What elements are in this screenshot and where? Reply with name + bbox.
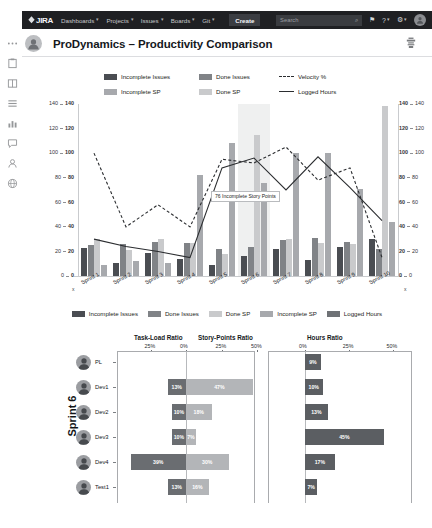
page-header: ProDynamics – Productivity Comparison [22, 31, 432, 57]
hours-bar[interactable]: 7% [305, 479, 317, 495]
clipboard-icon[interactable] [7, 55, 18, 66]
nav-item-boards[interactable]: Boards ▾ [171, 17, 196, 24]
ratio-row[interactable]: Dev439%30%17% [22, 451, 432, 476]
legend-item-done-sp-b[interactable]: Done SP [209, 310, 250, 317]
legend-swatch [209, 311, 222, 317]
task-load-bar[interactable]: 39% [131, 454, 186, 470]
notifications-icon[interactable]: ⚑ [369, 16, 375, 24]
jira-logo-text: JIRA [36, 16, 53, 25]
legend-item-incomplete-sp-b[interactable]: Incomplete SP [260, 310, 317, 317]
chart-icon[interactable] [7, 115, 18, 126]
jira-logo[interactable]: JIRA [28, 16, 53, 25]
ratio-row-label: Dev2 [95, 409, 109, 415]
y-tick-mark [404, 276, 407, 277]
ratio-axis-tick-label: 50% [387, 343, 398, 349]
user-avatar[interactable] [414, 14, 426, 26]
legend-item-velocity[interactable]: Velocity % [279, 73, 389, 80]
y-tick-label: 40 [412, 224, 418, 229]
legend-item-incomplete-issues-b[interactable]: Incomplete Issues [72, 310, 138, 317]
y-tick-label-bold: 20 [399, 249, 405, 254]
row-tick-mark [113, 437, 116, 438]
people-icon[interactable] [7, 155, 18, 166]
y-tick-mark [407, 226, 410, 227]
y-tick-mark [410, 104, 413, 105]
chevron-down-icon: ▾ [131, 18, 134, 23]
legend-item-incomplete-issues[interactable]: Incomplete Issues [104, 73, 199, 80]
hours-bar[interactable]: 10% [305, 379, 323, 395]
legend-label: Incomplete SP [121, 88, 161, 95]
hours-bar[interactable]: 9% [305, 354, 321, 370]
legend-swatch [104, 74, 117, 80]
task-load-bar[interactable]: 13% [168, 479, 186, 495]
y-tick-label-bold: 80 [68, 175, 74, 180]
story-points-bar[interactable]: 30% [186, 454, 229, 470]
hours-bar[interactable]: 13% [305, 404, 328, 420]
nav-item-issues[interactable]: Issues ▾ [141, 17, 164, 24]
y-tick-mark [60, 153, 63, 154]
y-tick-label: 140 [49, 101, 58, 106]
ratio-row[interactable]: Test113%16%7% [22, 476, 432, 501]
ratio-axis-tick-label: 25% [343, 343, 354, 349]
gear-glyph: ⚙ [397, 16, 403, 24]
more-options-icon[interactable] [7, 35, 18, 46]
task-load-bar[interactable]: 10% [172, 404, 186, 420]
chat-icon[interactable] [7, 135, 18, 146]
ratio-row[interactable]: Dev113%47%10% [22, 376, 432, 401]
y-tick-mark [63, 226, 66, 227]
nav-right-group: Search ⌕ ⚑ ?▾ ⚙▾ [276, 14, 426, 26]
legend-item-done-issues-b[interactable]: Done Issues [148, 310, 199, 317]
y-tick-label-bold: 60 [399, 200, 405, 205]
ratio-row[interactable]: Dev310%7%45% [22, 426, 432, 451]
legend-label: Done SP [216, 88, 240, 95]
chevron-down-icon: ▾ [161, 18, 164, 23]
hours-bar[interactable]: 17% [305, 454, 335, 470]
settings-gear-icon[interactable]: ⚙▾ [397, 16, 407, 24]
avatar [76, 480, 91, 495]
story-points-bar[interactable]: 18% [186, 404, 212, 420]
task-load-bar[interactable]: 10% [172, 429, 186, 445]
avatar [76, 355, 91, 370]
chart-legend-top: Incomplete Issues Done Issues Velocity %… [104, 69, 404, 99]
legend-item-logged-hours[interactable]: Logged Hours [279, 88, 389, 95]
row-tick-mark [113, 387, 116, 388]
legend-label: Done SP [226, 310, 250, 317]
nav-item-dashboards[interactable]: Dashboards ▾ [61, 17, 99, 24]
legend-swatch [199, 89, 212, 95]
story-points-bar[interactable]: 16% [186, 479, 209, 495]
legend-item-done-issues[interactable]: Done Issues [199, 73, 279, 80]
create-button[interactable]: Create [229, 14, 260, 26]
y-tick-label: 20 [55, 249, 61, 254]
nav-item-label: Git [202, 17, 210, 24]
y-tick-mark [63, 251, 66, 252]
chevron-down-icon: ▾ [96, 18, 99, 23]
book-icon[interactable] [7, 75, 18, 86]
story-points-bar[interactable]: 7% [186, 429, 196, 445]
ratio-axis-tick-label: 25% [145, 343, 156, 349]
ratio-axis-tick-label: 0% [299, 343, 307, 349]
ratio-row[interactable]: Dev210%18%13% [22, 401, 432, 426]
legend-item-incomplete-sp[interactable]: Incomplete SP [104, 88, 199, 95]
x-axis-end-marker: x [404, 286, 407, 292]
search-input[interactable]: Search ⌕ [276, 15, 362, 26]
legend-swatch [327, 311, 340, 317]
globe-icon[interactable] [7, 175, 18, 186]
legend-swatch [260, 311, 273, 317]
ratio-row[interactable]: PL9% [22, 351, 432, 376]
list-icon[interactable] [7, 95, 18, 106]
legend-item-done-sp[interactable]: Done SP [199, 88, 279, 95]
gadget-menu-icon[interactable] [406, 35, 416, 53]
ratio-row-label: Dev3 [95, 434, 109, 440]
y-tick-label-bold: 120 [399, 126, 408, 131]
task-load-bar[interactable]: 13% [168, 379, 186, 395]
story-points-bar[interactable]: 47% [186, 379, 253, 395]
row-tick-mark [113, 487, 116, 488]
chevron-down-icon: ▾ [192, 18, 195, 23]
nav-item-git[interactable]: Git ▾ [202, 17, 215, 24]
y-tick-label-bold: 140 [399, 101, 408, 106]
nav-item-projects[interactable]: Projects ▾ [106, 17, 133, 24]
page-title: ProDynamics – Productivity Comparison [53, 38, 272, 50]
help-icon[interactable]: ?▾ [382, 17, 390, 24]
hours-bar[interactable]: 45% [305, 429, 384, 445]
legend-item-logged-hours-b[interactable]: Logged Hours [327, 310, 382, 317]
productivity-chart-card: Incomplete Issues Done Issues Velocity %… [22, 58, 432, 333]
